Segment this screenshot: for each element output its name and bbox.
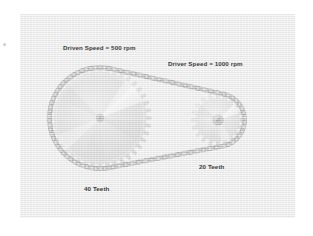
chain-link-pin bbox=[243, 121, 245, 123]
chain-link-pin bbox=[49, 120, 51, 122]
chain-link-pin bbox=[103, 67, 105, 69]
edge-artifact-speck bbox=[3, 43, 6, 46]
chain-link-pin bbox=[99, 168, 101, 170]
chain-link bbox=[207, 146, 214, 152]
chain-link-pin bbox=[94, 67, 96, 69]
chain-link bbox=[109, 164, 116, 170]
driven-sprocket-bore bbox=[98, 116, 101, 119]
driver-speed-label: Driver Speed = 1000 rpm bbox=[168, 61, 243, 67]
chain-link bbox=[174, 152, 181, 158]
chain-link bbox=[213, 144, 220, 150]
chain-link bbox=[135, 159, 142, 165]
chain-link-pin bbox=[95, 167, 97, 169]
driver-sprocket-graphic bbox=[191, 93, 250, 148]
chain-link bbox=[148, 157, 155, 163]
chain-link bbox=[200, 147, 207, 153]
chain-link bbox=[187, 149, 194, 155]
chain-link bbox=[142, 158, 149, 164]
chain-link-pin bbox=[90, 67, 92, 69]
chain-link-pin bbox=[49, 124, 51, 126]
chain-link-pin bbox=[242, 112, 244, 114]
driven-sprocket-teeth-label: 40 Teeth bbox=[84, 186, 109, 192]
driven-speed-label: Driven Speed = 500 rpm bbox=[63, 45, 136, 51]
chain-link bbox=[181, 151, 188, 157]
driver-sprocket-hub-highlight bbox=[216, 118, 218, 120]
chain-link-pin bbox=[243, 117, 245, 119]
chain-link bbox=[116, 163, 123, 169]
chain-link bbox=[168, 153, 175, 159]
chain-link bbox=[220, 143, 227, 149]
chain-link-pin bbox=[49, 110, 51, 112]
driver-sprocket-teeth-label: 20 Teeth bbox=[199, 164, 224, 170]
chain-link-pin bbox=[49, 115, 51, 117]
figure-root: Driven Speed = 500 rpm Driver Speed = 10… bbox=[0, 0, 313, 236]
chain-link-pin bbox=[50, 128, 52, 130]
chain-link-pin bbox=[104, 167, 106, 169]
chain-link bbox=[194, 148, 201, 154]
diagram-panel bbox=[20, 14, 295, 218]
chain-drive-illustration bbox=[20, 14, 295, 218]
chain-link bbox=[161, 154, 168, 160]
chain-link-pin bbox=[99, 67, 101, 69]
chain-link bbox=[155, 156, 162, 162]
chain-link bbox=[129, 161, 136, 167]
